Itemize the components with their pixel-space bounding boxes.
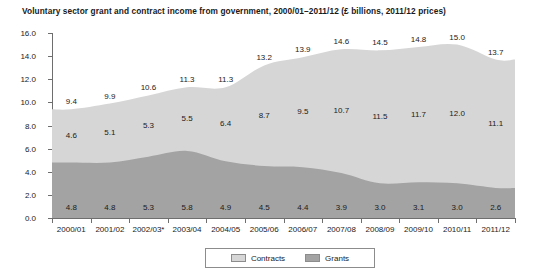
grants-value-label: 5.8	[181, 203, 192, 212]
total-value-label: 10.6	[141, 83, 157, 92]
x-tick-mark	[206, 219, 207, 223]
x-tick-label: 2001/02	[95, 225, 124, 234]
total-value-label: 9.4	[66, 97, 77, 106]
total-value-label: 15.0	[449, 33, 465, 42]
grants-value-label: 2.6	[490, 203, 501, 212]
contracts-value-label: 8.7	[259, 111, 270, 120]
x-tick-mark	[91, 219, 92, 223]
y-tick-label: 14.0	[20, 52, 36, 61]
grants-value-label: 4.8	[104, 203, 115, 212]
chart-legend: ContractsGrants	[205, 248, 375, 268]
y-tick-label: 10.0	[20, 98, 36, 107]
x-tick-label: 2003/04	[173, 225, 202, 234]
x-tick-label: 2004/05	[211, 225, 240, 234]
x-tick-mark	[476, 219, 477, 223]
total-value-label: 13.9	[295, 45, 311, 54]
x-tick-mark	[322, 219, 323, 223]
y-tick-label: 0.0	[25, 214, 36, 223]
contracts-value-label: 9.5	[297, 107, 308, 116]
legend-item-contracts[interactable]: Contracts	[231, 254, 285, 263]
x-tick-label: 2000/01	[57, 225, 86, 234]
grants-value-label: 3.0	[452, 203, 463, 212]
contracts-value-label: 4.6	[66, 131, 77, 140]
x-tick-label: 2008/09	[365, 225, 394, 234]
x-tick-mark	[168, 219, 169, 223]
y-tick-label: 2.0	[25, 190, 36, 199]
plot-area	[52, 33, 515, 218]
grants-value-label: 3.1	[413, 203, 424, 212]
total-value-label: 11.3	[180, 75, 195, 84]
x-tick-label: 2005/06	[250, 225, 279, 234]
total-value-label: 14.8	[411, 35, 427, 44]
stacked-area-svg	[52, 33, 515, 218]
y-tick-label: 8.0	[25, 121, 36, 130]
x-tick-mark	[52, 219, 53, 223]
x-tick-label: 2006/07	[288, 225, 317, 234]
legend-item-grants[interactable]: Grants	[305, 254, 349, 263]
legend-swatch-icon	[305, 254, 320, 262]
chart-title: Voluntary sector grant and contract inco…	[22, 6, 446, 16]
y-tick-label: 6.0	[25, 144, 36, 153]
x-tick-mark	[284, 219, 285, 223]
contracts-value-label: 5.3	[143, 121, 154, 130]
y-tick-label: 12.0	[20, 75, 36, 84]
contracts-value-label: 10.7	[334, 106, 350, 115]
x-tick-mark	[129, 219, 130, 223]
grants-value-label: 3.0	[374, 203, 385, 212]
legend-label: Contracts	[251, 254, 285, 263]
contracts-value-label: 5.1	[104, 128, 115, 137]
y-tick-label: 4.0	[25, 167, 36, 176]
x-tick-label: 2009/10	[404, 225, 433, 234]
legend-label: Grants	[325, 254, 349, 263]
grants-value-label: 5.3	[143, 203, 154, 212]
x-tick-mark	[245, 219, 246, 223]
grants-value-label: 3.9	[336, 203, 347, 212]
contracts-value-label: 12.0	[449, 109, 465, 118]
contracts-value-label: 5.5	[181, 114, 192, 123]
grants-value-label: 4.9	[220, 203, 231, 212]
x-tick-mark	[361, 219, 362, 223]
total-value-label: 11.3	[218, 75, 233, 84]
grants-value-label: 4.4	[297, 203, 308, 212]
x-tick-label: 2002/03*	[132, 225, 164, 234]
total-value-label: 9.9	[104, 92, 115, 101]
total-value-label: 14.5	[372, 38, 388, 47]
legend-swatch-icon	[231, 254, 246, 262]
x-tick-label: 2011/12	[482, 225, 510, 234]
x-tick-mark	[438, 219, 439, 223]
contracts-value-label: 6.4	[220, 119, 231, 128]
x-tick-mark	[515, 219, 516, 223]
total-value-label: 14.6	[334, 37, 350, 46]
total-value-label: 13.7	[488, 48, 504, 57]
x-tick-mark	[399, 219, 400, 223]
chart-container: Voluntary sector grant and contract inco…	[0, 0, 536, 275]
contracts-value-label: 11.5	[372, 112, 387, 121]
contracts-value-label: 11.1	[488, 119, 503, 128]
grants-value-label: 4.8	[66, 203, 77, 212]
total-value-label: 13.2	[256, 53, 272, 62]
y-tick-label: 16.0	[20, 29, 36, 38]
y-axis: 0.02.04.06.08.010.012.014.016.0	[0, 0, 48, 275]
contracts-value-label: 11.7	[411, 110, 426, 119]
grants-value-label: 4.5	[259, 203, 270, 212]
x-tick-label: 2007/08	[327, 225, 356, 234]
x-tick-label: 2010/11	[443, 225, 471, 234]
